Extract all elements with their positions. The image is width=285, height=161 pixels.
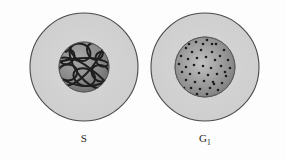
diagram-canvas: S G1 — [0, 0, 285, 161]
cell-label-s: S — [81, 132, 87, 144]
chromatin-granule — [188, 43, 191, 46]
cell-cycle-diagram: S G1 — [0, 0, 285, 161]
chromatin-granule — [195, 41, 198, 44]
chromatin-granule — [216, 73, 219, 76]
chromatin-granule — [185, 66, 188, 69]
chromatin-granule — [215, 43, 218, 46]
chromatin-granule — [202, 43, 205, 46]
chromatin-granule — [207, 74, 210, 77]
chromatin-granule — [223, 49, 226, 52]
chromatin-granule — [214, 59, 217, 62]
chromatin-granule — [211, 43, 214, 46]
chromatin-granule — [205, 56, 208, 59]
chromatin-granule — [200, 49, 203, 52]
chromatin-granule — [210, 67, 213, 70]
chromatin-granule — [181, 71, 184, 74]
chromatin-granule — [185, 47, 188, 50]
chromatin-granule — [191, 51, 194, 54]
chromatin-granule — [185, 79, 188, 82]
chromatin-granule — [219, 55, 222, 58]
chromatin-granule — [203, 80, 206, 83]
cell-label-g1-subscript: 1 — [207, 138, 211, 147]
chromatin-granule — [187, 58, 190, 61]
chromatin-granule — [180, 55, 183, 58]
chromatin-granule — [206, 39, 209, 42]
chromatin-granule — [224, 71, 227, 74]
chromatin-granule — [229, 67, 232, 70]
chromatin-granule — [206, 93, 209, 96]
chromatin-granule — [227, 59, 230, 62]
chromatin-granule — [199, 88, 202, 91]
chromatin-granule — [178, 63, 181, 66]
chromatin-granule — [213, 83, 216, 86]
cell-label-g1-main: G — [199, 132, 207, 144]
chromatin-granule — [198, 72, 201, 75]
chromatin-granule — [194, 81, 197, 84]
chromatin-granule — [220, 65, 223, 68]
chromatin-granule — [196, 93, 199, 96]
chromatin-granule — [217, 89, 220, 92]
chromatin-granule — [190, 87, 193, 90]
chromatin-granule — [202, 65, 205, 68]
chromatin-granule — [196, 57, 199, 60]
cell-label-s-main: S — [81, 132, 87, 144]
chromatin-granule — [225, 75, 228, 78]
chromatin-granule — [193, 64, 196, 67]
chromatin-granule — [211, 51, 214, 54]
chromatin-granule — [221, 82, 224, 85]
chromatin-granule — [189, 73, 192, 76]
chromatin-granule — [209, 87, 212, 90]
